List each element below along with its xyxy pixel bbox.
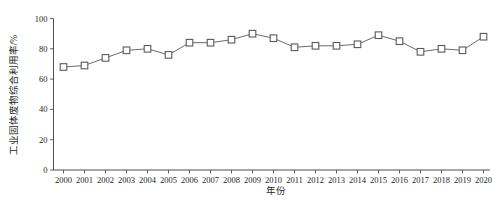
data-point-marker (417, 49, 424, 56)
x-tick-label: 2009 (244, 175, 261, 185)
data-point-marker (207, 39, 214, 46)
x-tick-label: 2019 (454, 175, 471, 185)
data-point-marker (375, 32, 382, 39)
data-point-marker (123, 47, 130, 54)
data-point-marker (228, 36, 235, 43)
data-point-marker (291, 44, 298, 51)
x-tick-label: 2018 (433, 175, 450, 185)
y-tick-label: 20 (39, 135, 48, 145)
x-tick-label: 2012 (307, 175, 324, 185)
x-tick-label: 2004 (139, 175, 157, 185)
x-tick-label: 2020 (475, 175, 492, 185)
data-point-marker (186, 39, 193, 46)
data-point-marker (312, 43, 319, 50)
x-tick-label: 2002 (97, 175, 114, 185)
data-point-marker (270, 35, 277, 42)
y-axis-title: 工业固体废物综合利用率/% (8, 35, 19, 156)
data-point-marker (249, 30, 256, 37)
x-axis-title: 年份 (266, 185, 286, 196)
y-tick-label: 100 (35, 14, 48, 24)
x-tick-label: 2014 (349, 175, 367, 185)
data-point-marker (438, 46, 445, 53)
x-tick-label: 2017 (412, 175, 429, 185)
data-point-marker (60, 64, 67, 71)
x-tick-label: 2001 (76, 175, 93, 185)
x-tick-label: 2015 (370, 175, 387, 185)
axes-layer: 0204060801002000200120022003200420052006… (35, 14, 492, 185)
x-tick-label: 2011 (286, 175, 303, 185)
data-point-marker (102, 55, 109, 62)
line-chart: 0204060801002000200120022003200420052006… (0, 0, 504, 211)
x-tick-label: 2000 (55, 175, 72, 185)
x-tick-label: 2005 (160, 175, 177, 185)
x-tick-label: 2013 (328, 175, 345, 185)
y-tick-label: 0 (43, 165, 47, 175)
data-point-marker (165, 52, 172, 59)
plot-layer (60, 30, 487, 70)
x-tick-label: 2006 (181, 175, 198, 185)
data-point-marker (354, 41, 361, 48)
y-tick-label: 80 (39, 44, 48, 54)
x-tick-label: 2016 (391, 175, 408, 185)
data-point-marker (396, 38, 403, 45)
y-tick-label: 60 (39, 74, 48, 84)
data-point-marker (144, 46, 151, 53)
data-point-marker (480, 33, 487, 40)
y-tick-label: 40 (39, 104, 48, 114)
chart-figure: 0204060801002000200120022003200420052006… (0, 0, 504, 211)
data-point-marker (459, 47, 466, 54)
x-tick-label: 2008 (223, 175, 240, 185)
x-tick-label: 2010 (265, 175, 282, 185)
data-point-marker (81, 62, 88, 69)
data-point-marker (333, 43, 340, 50)
x-tick-label: 2003 (118, 175, 135, 185)
x-tick-label: 2007 (202, 175, 219, 185)
